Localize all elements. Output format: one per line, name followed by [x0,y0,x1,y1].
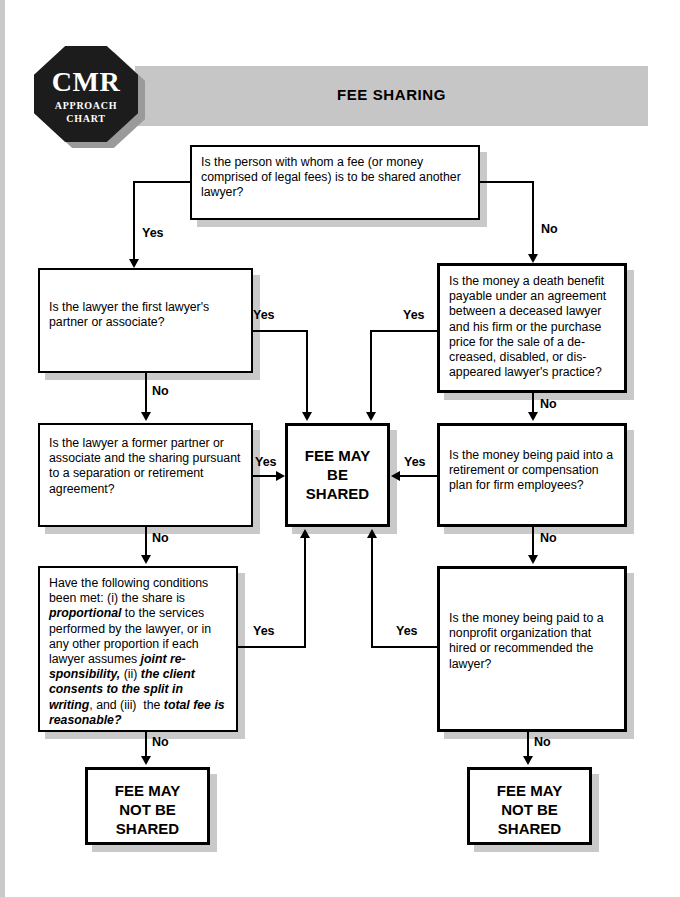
node-start-question[interactable]: Is the person with whom a fee (or money … [190,145,480,220]
edge-label-left1-yes: Yes [253,308,275,322]
node-left3-text: Have the following conditions been met: … [49,576,229,728]
cmr-approach-chart-logo: CMR APPROACH CHART [34,46,146,146]
node-right2-question[interactable]: Is the money being paid into a retiremen… [437,423,627,527]
edge-right3-yes-arrowhead [367,529,377,538]
edge-right1-yes-vertical [370,330,372,414]
edge-label-left3-yes: Yes [253,624,275,638]
node-left2-text: Is the lawyer a former partner or associ… [49,436,244,497]
edge-right3-yes-vertical [371,538,373,648]
edge-right1-yes-arrowhead [366,412,376,421]
logo-subtitle-line2: CHART [34,114,138,124]
edge-left3-yes-horizontal [238,646,306,648]
node-fee-may-not-be-shared-right-text: FEE MAYNOT BESHARED [470,781,589,838]
logo-subtitle-line1: APPROACH [34,101,138,111]
edge-label-right3-no: No [534,735,551,749]
edge-right2-yes-arrowhead [391,471,400,481]
edge-label-left2-yes: Yes [255,455,277,469]
node-fee-may-not-be-shared-left-text: FEE MAYNOT BESHARED [88,781,207,838]
edge-label-right2-yes: Yes [404,455,426,469]
logo-title: CMR [34,68,138,96]
edge-start-no-vertical [532,181,534,254]
page-scan-edge [0,0,5,897]
node-left1-question[interactable]: Is the lawyer the first lawyer's partner… [38,268,253,373]
edge-right2-yes-horizontal [400,475,437,477]
edge-label-right3-yes: Yes [396,624,418,638]
edge-left3-yes-arrowhead [300,529,310,538]
edge-label-right1-yes: Yes [403,308,425,322]
edge-start-yes-horizontal [133,181,192,183]
edge-right2-no-arrowhead [528,555,538,564]
edge-right3-no-arrowhead [523,756,533,765]
node-start-text: Is the person with whom a fee (or money … [201,155,471,201]
node-right3-question[interactable]: Is the money being paid to a nonprofit o… [437,566,627,732]
node-fee-may-be-shared-text: FEE MAYBESHARED [288,446,387,503]
edge-label-right2-no: No [540,531,557,545]
edge-left2-yes-arrowhead [276,471,285,481]
edge-start-no-arrowhead [528,254,538,263]
edge-right3-no-vertical [527,732,529,757]
edge-left1-yes-vertical [306,330,308,414]
edge-left3-no-arrowhead [141,756,151,765]
node-right3-text: Is the money being paid to a nonprofit o… [449,611,617,672]
edge-right1-yes-horizontal [370,330,438,332]
node-fee-may-not-be-shared-left[interactable]: FEE MAYNOT BESHARED [85,767,210,845]
chart-title-bar: FEE SHARING [135,66,648,126]
node-left2-question[interactable]: Is the lawyer a former partner or associ… [38,423,253,527]
edge-left2-no-arrowhead [141,555,151,564]
edge-start-yes-arrowhead [129,259,139,268]
edge-left1-no-arrowhead [141,412,151,421]
edge-right1-no-vertical [532,393,534,413]
edge-start-no-horizontal [478,181,534,183]
node-left3-question[interactable]: Have the following conditions been met: … [38,566,238,732]
edge-left1-no-vertical [145,373,147,413]
node-right1-text: Is the money a death benefit payable und… [449,274,617,380]
edge-label-left1-no: No [152,384,169,398]
node-fee-may-be-shared[interactable]: FEE MAYBESHARED [285,423,390,527]
edge-start-yes-vertical [133,181,135,259]
edge-label-right1-no: No [540,397,557,411]
page-title: FEE SHARING [135,86,648,103]
edge-left3-no-vertical [145,732,147,757]
node-left1-text: Is the lawyer the first lawyer's partner… [49,300,244,330]
node-right2-text: Is the money being paid into a retiremen… [449,448,617,494]
edge-right1-no-arrowhead [528,412,538,421]
edge-label-start-yes: Yes [142,226,164,240]
edge-right2-no-vertical [532,527,534,556]
edge-left2-no-vertical [145,527,147,556]
edge-left2-yes-horizontal [253,475,278,477]
edge-left1-yes-arrowhead [302,412,312,421]
node-right1-question[interactable]: Is the money a death benefit payable und… [437,263,627,393]
edge-right3-yes-horizontal [371,646,438,648]
node-fee-may-not-be-shared-right[interactable]: FEE MAYNOT BESHARED [467,767,592,845]
edge-left3-yes-vertical [304,538,306,648]
edge-label-left3-no: No [152,735,169,749]
edge-label-left2-no: No [152,531,169,545]
flowchart-page: FEE SHARING CMR APPROACH CHART Is the pe… [0,0,680,897]
edge-label-start-no: No [541,222,558,236]
edge-left1-yes-horizontal [253,330,308,332]
